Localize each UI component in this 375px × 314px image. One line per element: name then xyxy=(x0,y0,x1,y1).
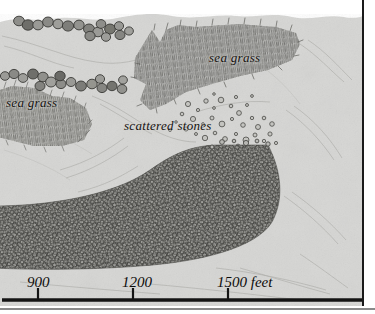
scale-tick-label-900: 900 xyxy=(27,274,50,291)
seabed-survey-map: sea grass sea grass scattered stones 900… xyxy=(0,0,375,314)
scale-tick-label-1500: 1500 feet xyxy=(217,274,272,291)
scale-bar: 900 1200 1500 feet xyxy=(0,266,375,314)
scale-tick-label-1200: 1200 xyxy=(122,274,152,291)
plate-border-right xyxy=(362,0,364,306)
map-label-sea-grass-left: sea grass xyxy=(6,95,57,111)
map-label-sea-grass-right: sea grass xyxy=(209,50,260,66)
map-label-scattered-stones: scattered stones xyxy=(124,118,212,134)
